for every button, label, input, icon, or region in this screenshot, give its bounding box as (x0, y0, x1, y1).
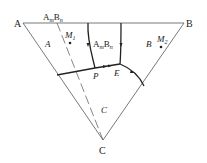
point-label-p: P (92, 71, 99, 81)
point-label-m2: M2 (156, 34, 168, 45)
vertex-label-c: C (99, 145, 106, 156)
point-m1 (69, 42, 72, 45)
point-m2 (160, 46, 163, 49)
field-label-a: A (44, 39, 51, 49)
field-label-c: C (101, 105, 108, 115)
boundary-curve-e-bc (120, 64, 144, 86)
boundary-curve-ac-p (57, 68, 95, 75)
point-label-m1: M1 (64, 30, 76, 41)
arrow-icon (87, 43, 90, 47)
arrow-icon (120, 43, 123, 47)
arrow-icon (103, 65, 107, 68)
compound-label-top: AmBn (43, 12, 63, 23)
point-label-e: E (113, 68, 120, 78)
vertex-label-b: B (186, 18, 193, 29)
ternary-diagram: A B C AmBn A B C AmBn M1 M2 P E (0, 0, 207, 163)
field-label-b: B (146, 39, 152, 49)
vertex-label-a: A (14, 18, 22, 29)
field-label-ambn: AmBn (93, 39, 113, 50)
